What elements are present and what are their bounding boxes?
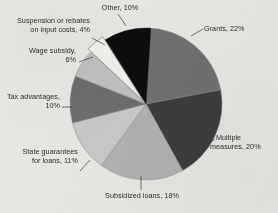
slice-label-grants: Grants, 22% (204, 25, 274, 34)
slice-label-multiple-measures-line2: measures, 20% (210, 143, 276, 152)
slice-label-subsidized-loans: Subsidized loans, 18% (103, 192, 181, 201)
pie-chart-figure: Other, 10% Suspension or rebates on inpu… (0, 0, 278, 213)
leader-line-other (118, 14, 126, 26)
slice-label-suspension-line2: on input costs, 4% (2, 26, 90, 35)
slice-label-wage-subsidy-line2: 6% (8, 56, 76, 65)
leader-line-state-guarantees (80, 160, 90, 171)
slice-label-other: Other, 10% (92, 4, 148, 13)
leader-line-grants (191, 29, 203, 36)
slice-label-tax-advantages-line2: 10% (0, 102, 60, 111)
slice-label-state-guarantees-line2: for loans, 11% (8, 157, 78, 166)
pie-slices (70, 28, 222, 180)
